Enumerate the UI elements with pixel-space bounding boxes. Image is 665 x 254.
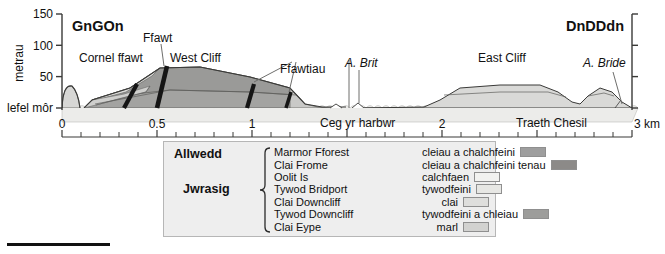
legend-unit-name: Tywod Bridport [274, 183, 422, 195]
y-axis-labels: 150 100 50 lefel môr metrau [7, 7, 53, 115]
legend-row: Tywod Bridport tywodfeini [274, 183, 489, 195]
legend-row: Oolit Is calchfaen [274, 171, 489, 183]
legend-color-swatch [551, 160, 577, 170]
legend-color-swatch [520, 147, 546, 157]
legend-unit-name: Clai Downcliff [274, 196, 422, 208]
legend-title: Allwedd [174, 147, 222, 161]
x-axis-scale-bar [62, 130, 632, 137]
legend-unit-description: tywodfeini a chleiau [422, 208, 523, 220]
annotation-afon-brit: A. Brit [344, 56, 378, 70]
legend-unit-description: calchfaen [422, 171, 474, 183]
cross-section-svg: 150 100 50 lefel môr metrau 0 0.5 1 2 3 … [0, 0, 665, 145]
legend-unit-description: clai [422, 196, 463, 208]
legend-color-swatch [523, 209, 549, 219]
y-tick-50: 50 [40, 70, 54, 84]
y-tick-sea-level: lefel môr [7, 101, 53, 115]
legend-unit-name: Tywod Downcliff [274, 208, 422, 220]
x-tick-0: 0 [59, 117, 66, 131]
annotation-harbour-mouth: Ceg yr harbwr [320, 116, 395, 130]
legend-curly-brace [259, 147, 271, 233]
legend-row: Clai Frome cleiau a chalchfeini tenau [274, 158, 489, 170]
legend-color-swatch [463, 222, 489, 232]
x-tick-0-5: 0.5 [149, 117, 166, 131]
legend-color-swatch [463, 197, 489, 207]
legend-row: Clai Eype marl [274, 220, 489, 232]
legend-group-label-jwrasig: Jwrasig [183, 182, 230, 196]
legend-unit-description: marl [422, 221, 463, 233]
east-cliff-geology [352, 85, 632, 108]
y-tick-150: 150 [33, 7, 53, 21]
legend-row: Tywod Downcliff tywodfeini a chleiau [274, 208, 489, 220]
y-axis [56, 14, 62, 110]
annotation-east-cliff: East Cliff [478, 51, 526, 65]
bottom-rule-divider [7, 243, 110, 246]
right-axis [632, 14, 638, 110]
annotation-afon-bride: A. Bride [582, 56, 626, 70]
annotation-chesil-beach: Traeth Chesil [516, 116, 587, 130]
label-dnddn: DnDDdn [566, 18, 624, 34]
legend-row: Clai Downcliff clai [274, 196, 489, 208]
legend-color-swatch [476, 184, 502, 194]
x-tick-2: 2 [439, 117, 446, 131]
annotation-ffawt: Ffawt [143, 31, 173, 45]
legend-unit-name: Clai Eype [274, 221, 422, 233]
y-tick-100: 100 [33, 39, 53, 53]
label-gngon: GnGOn [72, 18, 124, 34]
legend-panel: Allwedd Jwrasig Marmor Fforest cleiau a … [163, 141, 496, 237]
annotation-cornel-ffawt: Cornel ffawt [79, 51, 143, 65]
legend-rows-container: Marmor Fforest cleiau a chalchfeini Clai… [274, 146, 489, 232]
ffawt-leader [161, 44, 164, 66]
legend-unit-description: cleiau a chalchfeini tenau [422, 159, 551, 171]
legend-color-swatch [474, 172, 500, 182]
cross-section-diagram: 150 100 50 lefel môr metrau 0 0.5 1 2 3 … [0, 0, 665, 145]
annotation-west-cliff: West Cliff [170, 51, 222, 65]
legend-row: Marmor Fforest cleiau a chalchfeini [274, 146, 489, 158]
legend-unit-name: Clai Frome [274, 159, 422, 171]
legend-unit-description: cleiau a chalchfeini [422, 146, 520, 158]
geological-cross-section-figure: 150 100 50 lefel môr metrau 0 0.5 1 2 3 … [0, 0, 665, 254]
legend-unit-name: Marmor Fforest [274, 146, 422, 158]
y-axis-title: metrau [12, 44, 26, 81]
legend-unit-name: Oolit Is [274, 171, 422, 183]
x-tick-1: 1 [249, 117, 256, 131]
annotation-ffawtiau: Ffawtiau [280, 62, 325, 76]
x-tick-3km: 3 km [634, 117, 660, 131]
legend-unit-description: tywodfeini [422, 183, 476, 195]
east-cliff-body [364, 85, 632, 108]
